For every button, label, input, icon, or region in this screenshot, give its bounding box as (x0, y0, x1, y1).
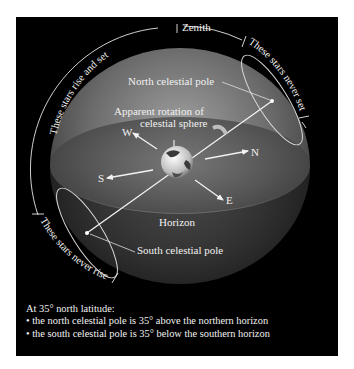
label-west: W (122, 126, 133, 138)
caption-bullet-north: • the north celestial pole is 35° above … (26, 315, 336, 327)
label-apparent-rotation-1: Apparent rotation of (114, 105, 204, 117)
label-horizon: Horizon (159, 216, 196, 228)
label-south-celestial-pole: South celestial pole (137, 244, 223, 256)
caption-bullet-south: • the south celestial pole is 35° below … (26, 328, 336, 340)
label-zenith: Zenith (182, 21, 211, 33)
label-south: S (98, 172, 104, 184)
label-north: N (251, 146, 259, 158)
caption-heading: At 35° north latitude: (26, 303, 336, 315)
north-pole-dot (270, 99, 274, 103)
label-apparent-rotation-2: celestial sphere (140, 117, 208, 129)
caption: At 35° north latitude: • the north celes… (26, 303, 336, 340)
south-pole-dot (85, 231, 89, 235)
label-north-celestial-pole: North celestial pole (128, 75, 214, 87)
label-east: E (226, 194, 233, 206)
